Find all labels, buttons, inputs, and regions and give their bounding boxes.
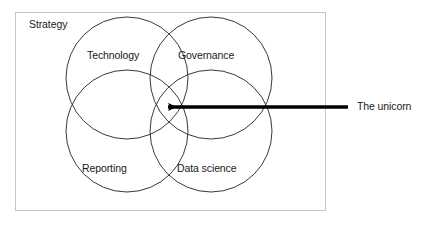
- diagram-canvas: Strategy Technology Governance Reporting…: [0, 0, 432, 230]
- venn-diagram-graphic: [0, 0, 432, 230]
- label-data-science: Data science: [177, 163, 237, 174]
- label-governance: Governance: [178, 50, 234, 61]
- label-technology: Technology: [87, 50, 139, 61]
- strategy-boundary-box: [16, 13, 326, 211]
- label-strategy: Strategy: [29, 19, 67, 30]
- label-reporting: Reporting: [82, 163, 127, 174]
- label-the-unicorn: The unicorn: [357, 101, 411, 112]
